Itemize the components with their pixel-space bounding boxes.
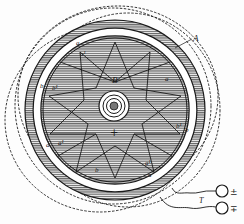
label-b1-left: b¹ (52, 84, 58, 92)
terminal-group: ± ∓ (216, 185, 238, 214)
label-a1-left: a¹ (58, 139, 64, 147)
label-center-plus: + (110, 127, 118, 138)
patent-diagram: A B a a¹ a b b¹ a a¹ b¹ b a¹ a b T + ± (0, 0, 244, 224)
label-b1-right: b¹ (176, 122, 182, 130)
terminal-1-icon[interactable] (216, 185, 228, 197)
label-b-left: b (40, 82, 44, 90)
label-a1-bottom: a¹ (145, 159, 151, 167)
leader-A (175, 39, 192, 48)
label-T: T (199, 196, 204, 205)
label-a-top: a (76, 39, 80, 47)
center-hub (99, 91, 129, 121)
label-a-bottom: a (148, 171, 152, 179)
label-A: A (192, 33, 199, 43)
label-a-left: a (46, 141, 50, 149)
label-b-right: b (185, 126, 189, 134)
label-b-bottom: b (95, 166, 99, 174)
terminal-2-sign: ∓ (230, 204, 238, 214)
label-a1-top: a¹ (80, 50, 86, 58)
diagram-svg: A B a a¹ a b b¹ a a¹ b¹ b a¹ a b T + ± (0, 0, 244, 224)
label-a-right: a (165, 75, 169, 83)
lead-wires (160, 188, 216, 208)
terminal-1-sign: ± (230, 187, 238, 197)
label-B: B (112, 75, 118, 85)
terminal-2-icon[interactable] (216, 202, 228, 214)
